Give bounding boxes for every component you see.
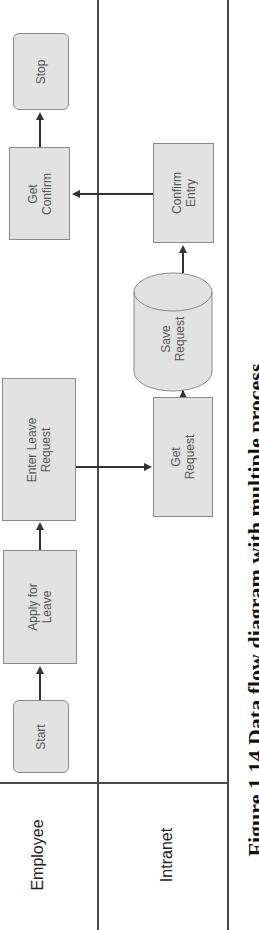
- node-apply-for-leave-label: Apply for Leave: [26, 583, 54, 630]
- node-start: Start: [13, 700, 69, 773]
- node-confirm-entry-label: Confirm Entry: [170, 172, 198, 214]
- node-enter-leave-request-label: Enter Leave Request: [25, 417, 53, 482]
- figure-caption: Figure 1.14 Data flow diagram with multi…: [243, 364, 259, 857]
- node-confirm-entry: Confirm Entry: [153, 143, 214, 243]
- node-save-request-label: Save Request: [159, 317, 187, 362]
- node-get-request: Get Request: [153, 397, 213, 517]
- node-start-label: Start: [34, 724, 48, 749]
- node-save-request: Save Request: [133, 272, 213, 392]
- node-stop: Stop: [13, 33, 69, 110]
- node-apply-for-leave: Apply for Leave: [3, 550, 77, 664]
- node-get-request-label: Get Request: [169, 435, 197, 480]
- node-enter-leave-request: Enter Leave Request: [2, 378, 76, 521]
- node-get-confirm-label: Get Confirm: [26, 172, 54, 214]
- node-stop-label: Stop: [34, 59, 48, 84]
- node-get-confirm: Get Confirm: [9, 147, 70, 240]
